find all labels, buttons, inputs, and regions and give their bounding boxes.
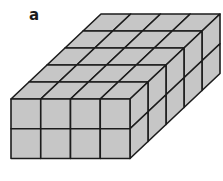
figure: a [0, 0, 223, 181]
figure-label: a [29, 8, 39, 23]
front-face-cell [100, 129, 130, 159]
cube-prism-diagram [0, 0, 223, 181]
front-face-cell [100, 99, 130, 129]
front-face-cell [11, 129, 41, 159]
front-face-cell [41, 99, 71, 129]
front-face-cell [71, 99, 101, 129]
front-face-cell [41, 129, 71, 159]
front-face-cell [71, 129, 101, 159]
front-face-cell [11, 99, 41, 129]
